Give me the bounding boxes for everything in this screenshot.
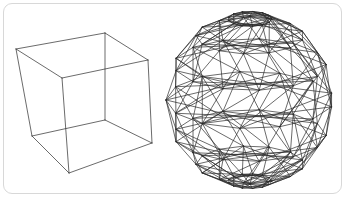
sphere-latitude-edge bbox=[243, 53, 269, 54]
drawing-canvas: Wireframe cube Wireframe geodesic polyhe… bbox=[0, 0, 345, 197]
sphere-latitude-edge bbox=[240, 127, 280, 129]
sphere-strut bbox=[262, 25, 269, 53]
cube-edge bbox=[16, 33, 105, 49]
cube-edge bbox=[32, 120, 105, 136]
cube-edge bbox=[62, 78, 69, 173]
sphere-strut bbox=[243, 146, 252, 174]
sphere-chord bbox=[223, 111, 317, 123]
sphere-strut bbox=[223, 72, 240, 112]
cube-edge bbox=[105, 33, 148, 60]
sphere-strut bbox=[166, 100, 176, 129]
sphere-strut bbox=[166, 82, 193, 100]
sphere-latitude-edge bbox=[202, 44, 219, 51]
sphere-chord bbox=[176, 40, 223, 70]
cube-edge bbox=[32, 136, 69, 173]
cube-figure bbox=[16, 33, 152, 173]
sphere-strut bbox=[317, 107, 331, 148]
sphere-latitude-edge bbox=[202, 149, 219, 156]
wireframe-figures bbox=[0, 0, 345, 197]
sphere-strut bbox=[240, 72, 259, 110]
cube-edge bbox=[105, 120, 152, 143]
sphere-strut bbox=[317, 52, 331, 93]
cube-edge bbox=[16, 49, 32, 136]
sphere-strut bbox=[293, 81, 313, 114]
sphere-strut bbox=[290, 23, 317, 52]
sphere-strut bbox=[176, 27, 202, 58]
sphere-strut bbox=[193, 47, 240, 71]
sphere-strut bbox=[293, 43, 313, 81]
sphere-strut bbox=[240, 86, 293, 129]
geodesic-sphere-figure bbox=[166, 12, 332, 189]
sphere-strut bbox=[193, 118, 243, 146]
sphere-strut bbox=[317, 52, 331, 106]
sphere-latitude-edge bbox=[202, 124, 240, 129]
sphere-strut bbox=[243, 26, 252, 54]
cube-edge bbox=[16, 49, 62, 78]
sphere-strut bbox=[166, 71, 176, 100]
sphere-strut bbox=[166, 100, 176, 142]
sphere-latitude-edge bbox=[243, 146, 269, 147]
sphere-chord bbox=[243, 31, 302, 54]
sphere-chord bbox=[243, 146, 302, 169]
sphere-strut bbox=[293, 119, 313, 157]
cube-edge bbox=[148, 60, 152, 143]
sphere-latitude-edge bbox=[240, 72, 280, 74]
cube-edge bbox=[69, 143, 152, 173]
